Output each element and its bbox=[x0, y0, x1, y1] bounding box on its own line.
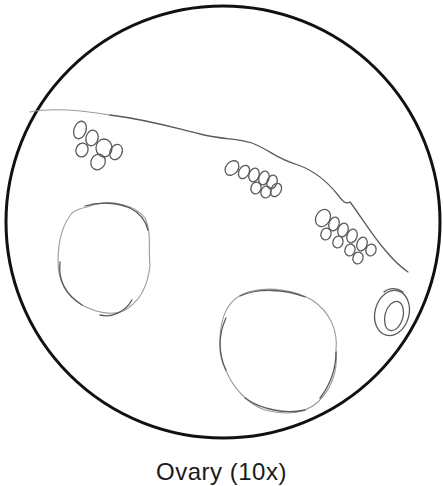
figure-caption: Ovary (10x) bbox=[0, 458, 443, 486]
primordial-follicle-cluster-left bbox=[71, 119, 125, 172]
small-follicle-with-oocyte bbox=[370, 286, 415, 339]
field-of-view-circle bbox=[6, 6, 440, 438]
primordial-follicle-cluster-right bbox=[312, 207, 377, 266]
primordial-follicle-cluster-middle bbox=[222, 158, 284, 199]
large-follicle-bottom bbox=[220, 289, 336, 413]
large-follicle-left bbox=[58, 203, 150, 316]
